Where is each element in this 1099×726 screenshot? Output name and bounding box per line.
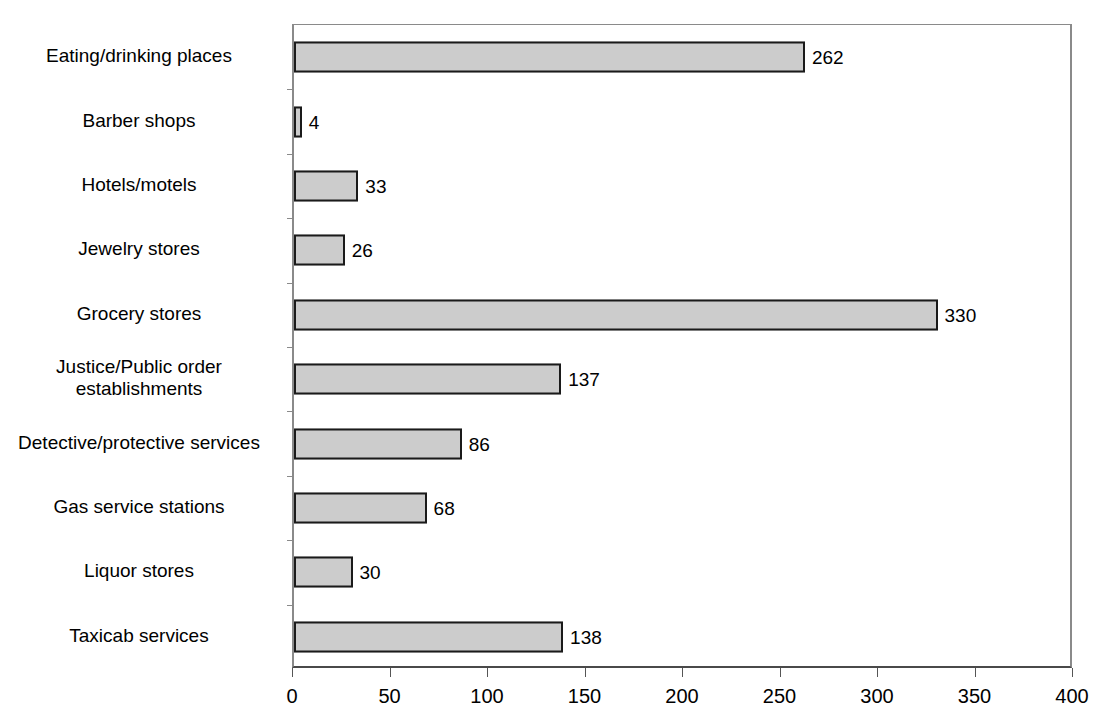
- bar-value-label: 330: [945, 305, 977, 324]
- category-label: Gas service stations: [0, 475, 278, 539]
- category-label: Barber shops: [0, 88, 278, 152]
- bar-value-label: 86: [469, 434, 490, 453]
- bar-row: 86: [294, 411, 1070, 475]
- bar-row: 33: [294, 154, 1070, 218]
- value-axis-tick-label: 300: [860, 684, 893, 708]
- category-tick: [287, 347, 294, 348]
- category-label-text: Detective/protective services: [0, 432, 278, 454]
- category-label-text: Hotels/motels: [0, 174, 278, 196]
- bar: [294, 235, 345, 266]
- category-label-text: Grocery stores: [0, 303, 278, 325]
- bar-group: 33: [294, 170, 386, 201]
- bar: [294, 492, 427, 523]
- category-tick: [287, 283, 294, 284]
- category-label-text: Liquor stores: [0, 560, 278, 582]
- bar-group: 4: [294, 106, 319, 137]
- bar-value-label: 26: [352, 241, 373, 260]
- bar-chart: Eating/drinking placesBarber shopsHotels…: [0, 0, 1099, 726]
- value-axis-tick-label: 400: [1055, 684, 1088, 708]
- value-axis-tick: [585, 668, 586, 677]
- category-tick: [287, 154, 294, 155]
- value-axis-tick-label: 250: [763, 684, 796, 708]
- bar: [294, 170, 358, 201]
- value-axis-tick-label: 350: [958, 684, 991, 708]
- bar-row: 262: [294, 25, 1070, 89]
- bar: [294, 428, 462, 459]
- category-label: Liquor stores: [0, 539, 278, 603]
- value-axis-tick: [292, 668, 293, 677]
- value-axis-tick: [780, 668, 781, 677]
- value-axis-tick: [390, 668, 391, 677]
- bar-value-label: 33: [365, 176, 386, 195]
- bar-row: 137: [294, 347, 1070, 411]
- bar: [294, 106, 302, 137]
- category-tick: [287, 218, 294, 219]
- bar-group: 30: [294, 557, 381, 588]
- category-label-text: Gas service stations: [0, 496, 278, 518]
- category-label-text: Eating/drinking places: [0, 45, 278, 67]
- bar-value-label: 137: [568, 370, 600, 389]
- category-tick: [287, 605, 294, 606]
- category-label-text: Jewelry stores: [0, 238, 278, 260]
- bar-row: 4: [294, 89, 1070, 153]
- bar-value-label: 138: [570, 627, 602, 646]
- category-label: Jewelry stores: [0, 217, 278, 281]
- value-axis-tick-label: 100: [470, 684, 503, 708]
- category-label: Eating/drinking places: [0, 24, 278, 88]
- value-axis-tick: [682, 668, 683, 677]
- value-axis-tick-label: 200: [665, 684, 698, 708]
- value-axis-tick: [975, 668, 976, 677]
- bar-value-label: 4: [309, 112, 320, 131]
- category-label-text: Barber shops: [0, 110, 278, 132]
- bar-group: 330: [294, 299, 976, 330]
- category-tick: [287, 89, 294, 90]
- plot-area: 26243326330137866830138: [292, 24, 1072, 668]
- bar: [294, 364, 561, 395]
- category-label-text: Justice/Public order establishments: [0, 356, 278, 400]
- value-axis-tick: [487, 668, 488, 677]
- bar-row: 68: [294, 476, 1070, 540]
- bar-group: 138: [294, 621, 602, 652]
- bar-value-label: 68: [434, 498, 455, 517]
- category-label: Taxicab services: [0, 604, 278, 668]
- bar: [294, 621, 563, 652]
- category-label: Hotels/motels: [0, 153, 278, 217]
- bar-row: 30: [294, 540, 1070, 604]
- value-axis-tick: [877, 668, 878, 677]
- category-label-text: Taxicab services: [0, 625, 278, 647]
- bar-row: 138: [294, 605, 1070, 669]
- bar-group: 262: [294, 42, 844, 73]
- bar-value-label: 262: [812, 48, 844, 67]
- category-tick: [287, 411, 294, 412]
- value-axis: 050100150200250300350400: [292, 668, 1072, 726]
- category-label: Justice/Public order establishments: [0, 346, 278, 410]
- bar-row: 26: [294, 218, 1070, 282]
- bar-group: 68: [294, 492, 455, 523]
- value-axis-tick-label: 0: [286, 684, 297, 708]
- bar: [294, 42, 805, 73]
- category-label: Grocery stores: [0, 282, 278, 346]
- bar-group: 26: [294, 235, 373, 266]
- bar-row: 330: [294, 283, 1070, 347]
- bar-group: 86: [294, 428, 490, 459]
- bar-group: 137: [294, 364, 600, 395]
- category-axis-labels: Eating/drinking placesBarber shopsHotels…: [0, 24, 278, 668]
- category-label: Detective/protective services: [0, 410, 278, 474]
- value-axis-tick: [1072, 668, 1073, 677]
- value-axis-tick-label: 50: [378, 684, 400, 708]
- category-tick: [287, 540, 294, 541]
- bar: [294, 299, 938, 330]
- bar: [294, 557, 353, 588]
- bar-value-label: 30: [360, 563, 381, 582]
- category-tick: [287, 476, 294, 477]
- value-axis-tick-label: 150: [568, 684, 601, 708]
